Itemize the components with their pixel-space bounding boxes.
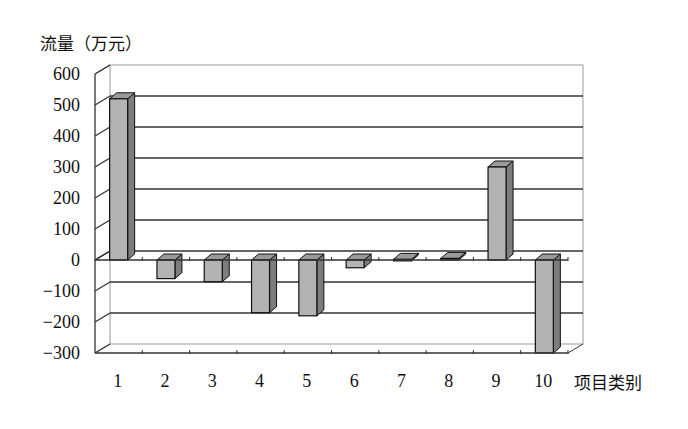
side-gridline: [95, 96, 110, 105]
bar-side: [128, 93, 135, 260]
bar-front: [204, 260, 222, 282]
x-tick-label: 6: [350, 371, 359, 391]
x-tick-label: 4: [255, 371, 264, 391]
bar: [252, 254, 277, 313]
x-tick-label: 2: [160, 371, 169, 391]
bar: [299, 254, 324, 316]
y-tick-label: 300: [53, 157, 80, 177]
y-tick-label: 200: [53, 188, 80, 208]
bar-side: [553, 254, 560, 353]
bar: [204, 254, 229, 282]
y-tick-label: −300: [43, 343, 80, 363]
x-tick-label: 8: [444, 371, 453, 391]
y-tick-label: 500: [53, 95, 80, 115]
side-gridline: [95, 220, 110, 229]
y-tick-label: −200: [43, 312, 80, 332]
side-gridline: [95, 158, 110, 167]
bar-front: [157, 260, 175, 279]
x-tick-label: 10: [534, 371, 552, 391]
side-gridline: [95, 344, 110, 353]
bar-chart: 6005004003002001000−100−200−300 12345678…: [0, 0, 688, 429]
bar-front: [299, 260, 317, 316]
y-tick-label: 0: [71, 250, 80, 270]
y-tick-labels: 6005004003002001000−100−200−300: [43, 64, 80, 363]
bar-front: [488, 167, 506, 260]
y-tick-label: −100: [43, 281, 80, 301]
bar: [441, 252, 466, 260]
x-tick-label: 9: [492, 371, 501, 391]
bar-front: [110, 99, 128, 260]
bar: [535, 254, 560, 353]
bar-side: [506, 161, 513, 260]
x-tick-label: 1: [113, 371, 122, 391]
bars: [110, 93, 561, 353]
x-tick-label: 7: [397, 371, 406, 391]
bar-front: [535, 260, 553, 353]
side-gridline: [95, 282, 110, 291]
side-gridline: [95, 65, 110, 74]
bar: [157, 254, 182, 279]
y-axis-title: 流量（万元）: [40, 34, 142, 54]
bar-side: [270, 254, 277, 313]
side-gridline: [95, 189, 110, 198]
x-tick-labels: 12345678910: [113, 371, 552, 391]
x-axis-title: 项目类别: [574, 373, 642, 393]
y-tick-label: 400: [53, 126, 80, 146]
bar-front: [252, 260, 270, 313]
bar: [110, 93, 135, 260]
y-tick-label: 100: [53, 219, 80, 239]
x-axis-depth: [95, 251, 110, 260]
y-tick-label: 600: [53, 64, 80, 84]
bar-side: [317, 254, 324, 316]
bar: [346, 254, 371, 268]
side-gridline: [95, 127, 110, 136]
bar-front: [346, 260, 364, 268]
x-tick-label: 3: [208, 371, 217, 391]
side-gridline: [95, 313, 110, 322]
floor-right-edge: [568, 344, 583, 353]
x-tick-label: 5: [302, 371, 311, 391]
bar: [488, 161, 513, 260]
